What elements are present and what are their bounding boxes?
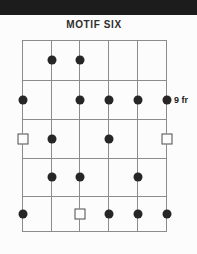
dot-marker bbox=[133, 173, 142, 182]
dot-marker bbox=[75, 56, 84, 65]
dot-marker bbox=[104, 96, 113, 105]
fret-position-label: 9 fr bbox=[174, 95, 188, 105]
dot-marker bbox=[47, 173, 56, 182]
dot-marker bbox=[162, 96, 171, 105]
fret-line-3 bbox=[22, 119, 167, 120]
page: MOTIF SIX 9 fr bbox=[0, 0, 197, 254]
dot-marker bbox=[47, 56, 56, 65]
string-line-5 bbox=[137, 40, 138, 231]
dot-marker bbox=[104, 135, 113, 144]
square-marker bbox=[17, 134, 28, 145]
string-line-3 bbox=[79, 40, 80, 231]
fret-line-1 bbox=[22, 40, 167, 41]
dot-marker bbox=[47, 135, 56, 144]
dot-marker bbox=[18, 210, 27, 219]
fret-line-4 bbox=[22, 158, 167, 159]
fret-line-2 bbox=[22, 80, 167, 81]
dot-marker bbox=[162, 210, 171, 219]
fret-line-5 bbox=[22, 196, 167, 197]
dot-marker bbox=[104, 210, 113, 219]
dot-marker bbox=[133, 96, 142, 105]
square-marker bbox=[161, 134, 172, 145]
square-marker bbox=[74, 209, 85, 220]
fretboard-diagram bbox=[0, 0, 197, 254]
dot-marker bbox=[18, 96, 27, 105]
dot-marker bbox=[75, 173, 84, 182]
dot-marker bbox=[133, 210, 142, 219]
dot-marker bbox=[75, 96, 84, 105]
fret-line-6 bbox=[22, 231, 167, 232]
